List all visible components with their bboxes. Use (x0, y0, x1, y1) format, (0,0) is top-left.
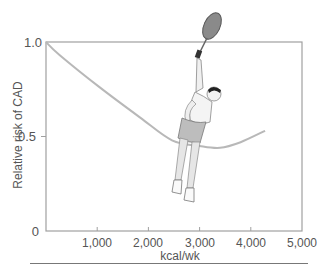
bottom-divider (30, 263, 308, 264)
x-tick-label-1000: 1,000 (75, 236, 119, 250)
x-tick-label-4000: 4,000 (229, 236, 273, 250)
x-tick-label-3000: 3,000 (178, 236, 222, 250)
chart: 1.0 0.5 0 1,000 2,000 3,000 4,000 5,000 … (0, 0, 329, 268)
x-ticks (97, 227, 251, 231)
plot-area (0, 0, 329, 268)
plot-frame (46, 42, 302, 231)
y-tick-label-0: 0 (9, 224, 39, 239)
y-tick-label-1.0: 1.0 (12, 35, 42, 50)
x-tick-label-5000: 5,000 (280, 236, 324, 250)
risk-curve (46, 42, 265, 148)
y-axis-label: Relative risk of CAD (11, 73, 25, 197)
x-tick-label-2000: 2,000 (126, 236, 170, 250)
x-axis-label: kcal/wk (150, 249, 210, 263)
tennis-player-illustration (172, 10, 225, 202)
